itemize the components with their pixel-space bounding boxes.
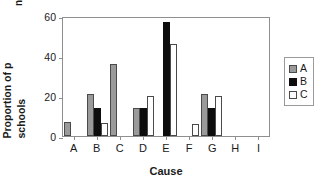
bar-group-d	[132, 18, 155, 136]
bar-g-series-a[interactable]	[201, 94, 208, 136]
bar-group-e	[155, 18, 178, 136]
x-axis-tick-mark	[166, 136, 167, 140]
y-axis-tick-mark	[59, 138, 63, 139]
y-axis-tick-label: 40	[34, 52, 56, 63]
legend-swatch-icon	[289, 78, 297, 86]
x-axis-tick-mark	[120, 136, 121, 140]
legend-item-a[interactable]: A	[289, 62, 308, 75]
bar-groups	[63, 18, 269, 136]
x-axis-tick-label: G	[201, 143, 224, 154]
x-axis-tick-mark	[143, 136, 144, 140]
y-axis-title: Proportion of p schools	[0, 18, 38, 138]
x-axis-title: Cause	[62, 166, 270, 177]
y-axis-title-line-2: schools	[16, 98, 27, 138]
x-axis-tick-mark	[74, 136, 75, 140]
bar-group-b	[86, 18, 109, 136]
legend-swatch-icon	[289, 91, 297, 99]
x-axis-tick-label: B	[85, 143, 108, 154]
x-axis-tick-label: D	[131, 143, 154, 154]
x-axis-tick-label: A	[62, 143, 85, 154]
bar-g-series-c[interactable]	[215, 96, 222, 136]
x-axis-tick-mark	[235, 136, 236, 140]
bar-d-series-b[interactable]	[140, 108, 147, 136]
legend-item-label: C	[300, 89, 308, 100]
bar-d-series-a[interactable]	[133, 108, 140, 136]
legend-item-b[interactable]: B	[289, 75, 308, 88]
legend: ABC	[284, 57, 314, 106]
y-axis-title-line-1: Proportion of p	[2, 62, 13, 138]
bar-f-series-c[interactable]	[192, 124, 199, 136]
x-axis-tick-label: C	[108, 143, 131, 154]
bar-group-i	[246, 18, 269, 136]
bar-group-a	[63, 18, 86, 136]
bar-b-series-a[interactable]	[87, 94, 94, 136]
x-axis-tick-mark	[189, 136, 190, 140]
chart-top-fragment-label: ng	[14, 0, 24, 6]
x-axis-tick-label: H	[224, 143, 247, 154]
x-axis-tick-mark	[258, 136, 259, 140]
bar-group-g	[200, 18, 223, 136]
bar-chart-figure: ng Proportion of p schools 0204060 ABCDE…	[0, 0, 329, 188]
x-axis-tick-labels: ABCDEFGHI	[62, 143, 270, 154]
y-axis-tick-label: 60	[34, 12, 56, 23]
x-axis-tick-label: E	[154, 143, 177, 154]
bar-e-series-b[interactable]	[163, 22, 170, 136]
bar-g-series-b[interactable]	[208, 108, 215, 136]
bar-a-series-a[interactable]	[64, 122, 71, 136]
bar-d-series-c[interactable]	[147, 96, 154, 136]
bar-group-c	[109, 18, 132, 136]
legend-swatch-icon	[289, 65, 297, 73]
bar-e-series-c[interactable]	[170, 44, 177, 136]
bar-group-h	[223, 18, 246, 136]
y-axis-tick-label: 20	[34, 92, 56, 103]
bar-b-series-b[interactable]	[94, 108, 101, 136]
bar-group-f	[177, 18, 200, 136]
bar-c-series-a[interactable]	[110, 64, 117, 136]
plot-area	[62, 17, 270, 137]
x-axis-tick-mark	[97, 136, 98, 140]
legend-item-label: A	[300, 63, 307, 74]
legend-item-c[interactable]: C	[289, 88, 308, 101]
y-axis-tick-label: 0	[34, 132, 56, 143]
x-axis-tick-mark	[212, 136, 213, 140]
bar-b-series-c[interactable]	[101, 123, 108, 136]
legend-item-label: B	[300, 76, 307, 87]
x-axis-tick-label: I	[247, 143, 270, 154]
x-axis-tick-label: F	[178, 143, 201, 154]
